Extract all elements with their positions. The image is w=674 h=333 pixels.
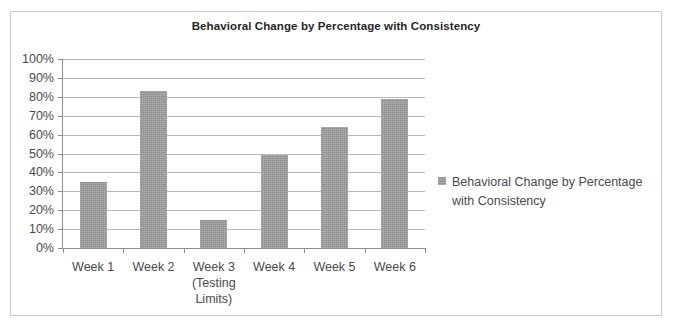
bar[interactable] (261, 155, 288, 248)
y-axis-tick-label: 60% (29, 128, 54, 142)
y-axis-tick-label: 50% (29, 147, 54, 161)
bar-slot (63, 59, 123, 248)
y-axis-tick-label: 20% (29, 203, 54, 217)
y-axis-tick-label: 40% (29, 165, 54, 179)
chart-frame: Behavioral Change by Percentage with Con… (10, 11, 662, 316)
y-axis-tick-label: 30% (29, 184, 54, 198)
bar[interactable] (80, 182, 107, 248)
y-axis-tick-label: 10% (29, 222, 54, 236)
plot-area: 100%90%80%70%60%50%40%30%20%10%0% (63, 59, 425, 248)
bar-slot (123, 59, 183, 248)
x-axis-category-label: Week 1 (63, 259, 123, 307)
chart-legend: Behavioral Change by Percentage with Con… (438, 173, 648, 211)
chart-title: Behavioral Change by Percentage with Con… (11, 20, 661, 32)
x-axis-category-label: Week 5 (304, 259, 364, 307)
bar-slot (304, 59, 364, 248)
bars-layer (63, 59, 425, 248)
x-axis-category-label: Week 6 (365, 259, 425, 307)
x-axis-category-label: Week 4 (244, 259, 304, 307)
bar[interactable] (381, 99, 408, 248)
y-axis-tick-label: 0% (36, 241, 54, 255)
y-axis-tick-label: 100% (22, 52, 54, 66)
bar-slot (244, 59, 304, 248)
series-color-swatch-icon (438, 177, 446, 185)
y-axis-tick-label: 70% (29, 109, 54, 123)
x-axis-category-label: Week 2 (123, 259, 183, 307)
bar-slot (365, 59, 425, 248)
legend-entry-label: Behavioral Change by Percentage with Con… (452, 173, 648, 211)
x-axis-tick (425, 248, 426, 253)
bar[interactable] (321, 127, 348, 248)
bar[interactable] (200, 220, 227, 248)
x-axis-labels: Week 1Week 2Week 3(TestingLimits)Week 4W… (63, 248, 425, 307)
x-axis-category-label: Week 3(TestingLimits) (184, 259, 244, 307)
bar-slot (184, 59, 244, 248)
y-axis-tick-label: 90% (29, 71, 54, 85)
legend-label-line-1: Behavioral Change by (452, 175, 575, 189)
plot-wrap: 100%90%80%70%60%50%40%30%20%10%0% Week 1… (63, 59, 425, 248)
y-axis-tick-label: 80% (29, 90, 54, 104)
bar[interactable] (140, 91, 167, 248)
